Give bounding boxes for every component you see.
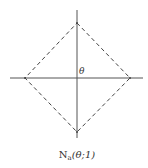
vertex-top (76, 22, 78, 24)
center-theta-label: θ (79, 66, 85, 76)
caption-label: Na(θ;1) (59, 149, 96, 162)
vertex-left (24, 77, 26, 79)
diagram-canvas: θ Na(θ;1) (0, 0, 148, 168)
vertex-right (129, 77, 131, 79)
vertex-bottom (76, 131, 78, 133)
